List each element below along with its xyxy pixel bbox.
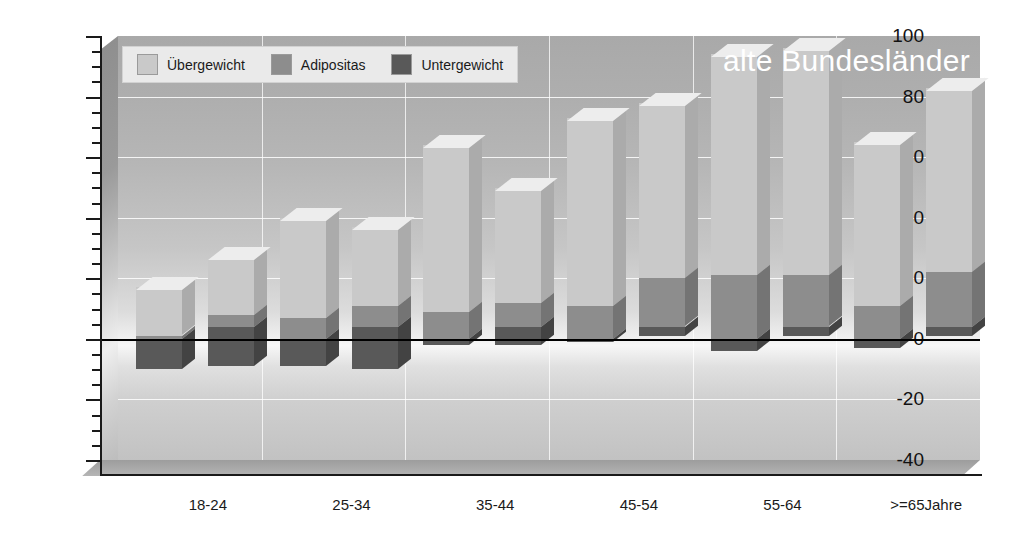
y-tick-minor [92, 324, 100, 326]
legend-item-uebergewicht: Übergewicht [137, 54, 245, 75]
bar-segment [423, 145, 469, 312]
bar-column [136, 36, 182, 460]
x-axis-tick-label: >=65Jahre [890, 496, 962, 513]
x-axis-tick-label: 25-34 [332, 496, 370, 513]
legend-swatch-untergewicht [391, 54, 412, 75]
bar-segment-front [136, 287, 182, 335]
y-tick-minor [92, 203, 100, 205]
plot-left-wall [100, 36, 118, 474]
bar-segment [926, 272, 972, 327]
bar-column [495, 24, 541, 448]
bar-column [854, 36, 900, 460]
x-axis-tick-label: 45-54 [620, 496, 658, 513]
bar-column [352, 24, 398, 448]
y-tick-major [86, 278, 100, 280]
plot-area [100, 36, 980, 476]
bar-column [639, 24, 685, 448]
bar-segment-side [757, 265, 770, 339]
x-axis-tick-label: 55-64 [763, 496, 801, 513]
chart-canvas: 100806040200-20-40 18-2425-3435-4445-545… [0, 0, 1030, 550]
bar-segment [639, 278, 685, 326]
y-tick-minor [92, 430, 100, 432]
bar-segment-side [469, 135, 482, 312]
y-tick-minor [92, 415, 100, 417]
bar-segment [208, 257, 254, 315]
bar-segment [639, 327, 685, 336]
bar-segment-front [280, 218, 326, 318]
bar-column [783, 24, 829, 448]
bar-segment-side [613, 108, 626, 306]
bar-segment-front [567, 118, 613, 306]
legend-label-uebergewicht: Übergewicht [167, 57, 245, 73]
y-tick-major [86, 218, 100, 220]
y-tick-major [86, 97, 100, 99]
x-axis [100, 474, 982, 476]
bar-segment-front [854, 142, 900, 306]
bar-segment-front [208, 327, 254, 366]
x-axis-tick-label: 18-24 [189, 496, 227, 513]
bar-segment-front [711, 275, 757, 339]
bar-segment-front [926, 272, 972, 327]
bar-segment-front [136, 339, 182, 369]
y-axis-tick-label: -40 [897, 449, 924, 471]
bar-segment-front [352, 327, 398, 369]
legend: Übergewicht Adipositas Untergewicht [122, 46, 518, 83]
bar-segment-side [398, 217, 411, 306]
bar-segment-front [495, 188, 541, 303]
legend-label-adipositas: Adipositas [301, 57, 366, 73]
bar-segment [854, 142, 900, 306]
bar-segment [854, 306, 900, 339]
bar-column [926, 24, 972, 448]
bar-segment-front [208, 257, 254, 315]
y-tick-major [86, 460, 100, 462]
bar-segment-side [541, 177, 554, 302]
y-tick-minor [92, 309, 100, 311]
bar-column [280, 36, 326, 460]
legend-swatch-adipositas [271, 54, 292, 75]
bar-segment [926, 327, 972, 336]
bar-segment-front [639, 278, 685, 326]
chart-title: alte Bundesländer [723, 44, 970, 78]
bar-segment [208, 327, 254, 366]
bar-segment [495, 303, 541, 327]
legend-item-untergewicht: Untergewicht [391, 54, 503, 75]
bar-segment [352, 306, 398, 327]
bar-segment-front [352, 306, 398, 327]
y-tick-minor [92, 248, 100, 250]
bar-segment [280, 218, 326, 318]
bar-segment [495, 327, 541, 345]
bar-segment-front [783, 327, 829, 336]
bar-segment [711, 275, 757, 339]
bar-segment-front [495, 327, 541, 345]
bar-segment [280, 318, 326, 339]
legend-item-adipositas: Adipositas [271, 54, 366, 75]
y-tick-minor [92, 112, 100, 114]
bar-segment-front [567, 306, 613, 339]
bar-segment-front [352, 227, 398, 306]
y-tick-minor [92, 187, 100, 189]
y-tick-minor [92, 127, 100, 129]
bar-segment-side [972, 77, 985, 272]
bar-segment-front [926, 327, 972, 336]
bar-segment [567, 118, 613, 306]
bar-segment [136, 339, 182, 369]
bar-segment-front [926, 88, 972, 273]
bar-segment [711, 54, 757, 275]
y-axis [100, 36, 102, 476]
legend-swatch-uebergewicht [137, 54, 158, 75]
y-tick-minor [92, 81, 100, 83]
y-tick-major [86, 399, 100, 401]
y-axis-tick-label: 80 [903, 86, 924, 108]
y-tick-minor [92, 66, 100, 68]
y-tick-major [86, 157, 100, 159]
bar-segment [136, 287, 182, 335]
x-axis-tick-label: 35-44 [476, 496, 514, 513]
bar-segment [352, 227, 398, 306]
bar-segment-side [757, 44, 770, 275]
bar-segment [926, 88, 972, 273]
y-tick-minor [92, 369, 100, 371]
bar-column [567, 36, 613, 460]
y-tick-major [86, 36, 100, 38]
y-tick-major [86, 339, 100, 341]
bar-segment-front [783, 275, 829, 326]
